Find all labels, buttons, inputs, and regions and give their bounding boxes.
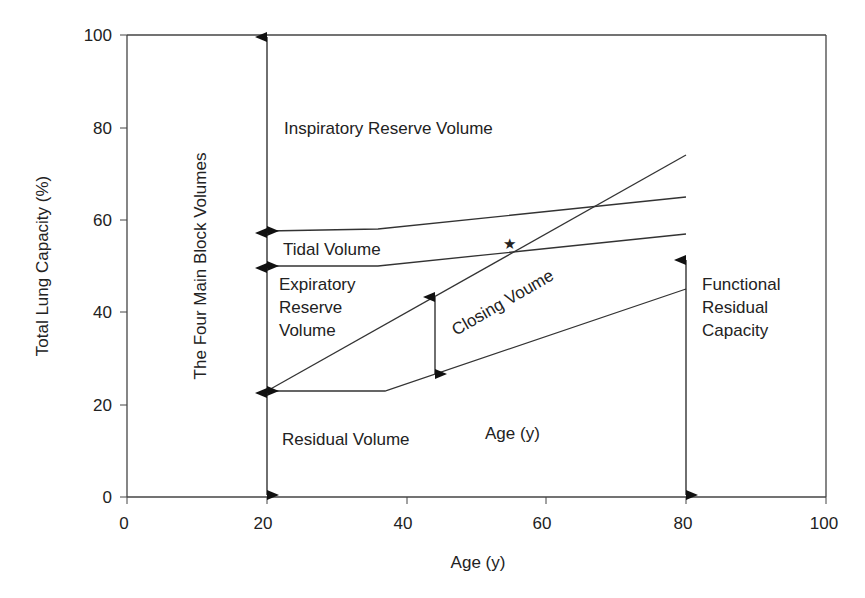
y-axis: 0 20 40 60 80 100 Total Lung Capacity (%… (33, 26, 127, 507)
y-tick-0: 0 (103, 488, 112, 507)
y-tick-20: 20 (93, 396, 112, 415)
x-tick-60: 60 (533, 514, 552, 533)
label-frc-line1: Functional (702, 275, 780, 294)
x-axis: 0 20 40 60 80 100 Age (y) (119, 497, 838, 572)
x-tick-20: 20 (254, 514, 273, 533)
y-tick-100: 100 (84, 26, 112, 45)
label-frc-line2: Residual (702, 298, 768, 317)
label-frc-line3: Capacity (702, 321, 769, 340)
y-axis-title: Total Lung Capacity (%) (33, 176, 52, 356)
label-closing-volume: Closing Voume (449, 266, 558, 340)
y-tick-80: 80 (93, 119, 112, 138)
x-tick-0: 0 (119, 514, 128, 533)
y-tick-60: 60 (93, 211, 112, 230)
line-closing-capacity (267, 155, 686, 391)
x-axis-title: Age (y) (451, 553, 506, 572)
plot-frame (127, 35, 826, 497)
x-tick-40: 40 (394, 514, 413, 533)
label-erv-line1: Expiratory (279, 275, 356, 294)
star-icon: ★ (503, 235, 516, 252)
label-irv: Inspiratory Reserve Volume (284, 119, 493, 138)
label-erv-line2: Reserve (279, 298, 342, 317)
label-inner-age: Age (y) (485, 424, 540, 443)
lung-volume-chart: 0 20 40 60 80 100 Total Lung Capacity (%… (0, 0, 865, 598)
x-tick-100: 100 (810, 514, 838, 533)
label-tidal-volume: Tidal Volume (283, 240, 381, 259)
line-end-inspiration (267, 197, 686, 231)
label-residual-volume: Residual Volume (282, 430, 410, 449)
x-tick-80: 80 (674, 514, 693, 533)
label-erv-line3: Volume (279, 321, 336, 340)
label-four-main-block-volumes: The Four Main Block Volumes (191, 153, 210, 380)
y-tick-40: 40 (93, 303, 112, 322)
series-lines (267, 155, 686, 391)
